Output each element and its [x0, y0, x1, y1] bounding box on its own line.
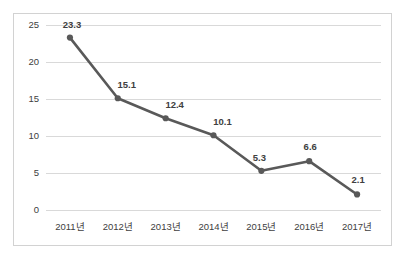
- y-axis-tick-labels: 0510152025: [28, 19, 39, 215]
- x-axis-tick-label: 2014년: [198, 221, 228, 232]
- x-axis-tick-label: 2015년: [246, 221, 276, 232]
- y-axis-tick-label: 0: [34, 204, 39, 215]
- x-axis-tick-label: 2016년: [294, 221, 324, 232]
- data-point-marker: [163, 115, 169, 121]
- chart-container: 0510152025 2011년2012년2013년2014년2015년2016…: [13, 13, 392, 246]
- data-point-label: 12.4: [165, 99, 184, 110]
- data-point-label: 15.1: [118, 79, 137, 90]
- data-point-marker: [115, 95, 121, 101]
- y-axis-tick-label: 20: [28, 56, 39, 67]
- data-point-label: 6.6: [304, 141, 317, 152]
- data-point-marker: [258, 168, 264, 174]
- x-axis-tick-label: 2012년: [103, 221, 133, 232]
- y-axis-tick-label: 15: [28, 93, 39, 104]
- line-chart-plot: 0510152025 2011년2012년2013년2014년2015년2016…: [14, 14, 393, 247]
- data-point-label: 2.1: [351, 174, 365, 185]
- x-axis-tick-label: 2013년: [151, 221, 181, 232]
- data-point-label: 5.3: [253, 152, 266, 163]
- data-point-marker: [67, 34, 73, 40]
- x-axis-tick-label: 2011년: [55, 221, 84, 232]
- x-axis-tick-label: 2017년: [342, 221, 372, 232]
- y-axis-tick-label: 25: [28, 19, 39, 30]
- data-point-label: 23.3: [63, 19, 82, 30]
- y-axis-tick-label: 5: [34, 167, 39, 178]
- data-point-marker: [210, 132, 216, 138]
- y-axis-tick-label: 10: [28, 130, 39, 141]
- data-point-marker: [354, 191, 360, 197]
- x-axis-tick-labels: 2011년2012년2013년2014년2015년2016년2017년: [55, 221, 372, 232]
- data-point-labels: 23.315.112.410.15.36.62.1: [63, 19, 366, 186]
- data-point-marker: [306, 158, 312, 164]
- data-point-label: 10.1: [213, 116, 232, 127]
